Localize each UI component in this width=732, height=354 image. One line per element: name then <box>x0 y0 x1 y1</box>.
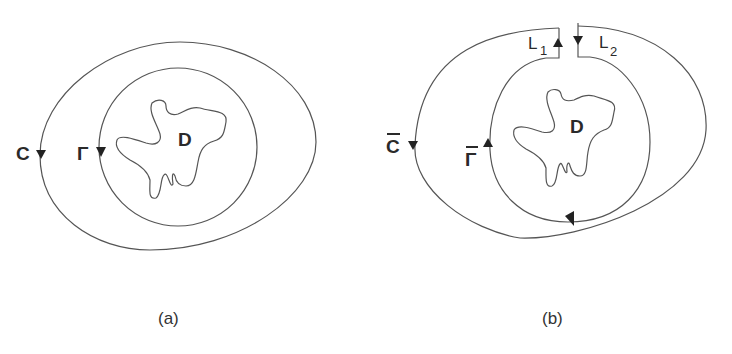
panel-a: C Γ D <box>16 42 316 250</box>
label-l1-subscript: 1 <box>540 43 547 58</box>
arrow-up-icon <box>553 38 563 47</box>
arrow-down-icon <box>408 141 418 150</box>
arrow-left-icon <box>565 211 574 226</box>
label-l1: L <box>528 34 537 53</box>
outer-curve-c-bar <box>415 26 706 238</box>
domain-d <box>116 100 226 198</box>
label-gamma-bar: Γ <box>465 149 477 170</box>
domain-d <box>514 90 615 187</box>
label-domain-d: D <box>178 129 192 150</box>
label-domain-d: D <box>570 116 584 137</box>
arrow-down-icon <box>96 147 106 157</box>
caption-a: (a) <box>158 309 179 328</box>
caption-b: (b) <box>542 309 563 328</box>
label-gamma: Γ <box>77 143 89 164</box>
contour-diagram: C Γ D C Γ D L 1 L 2 (a) (b) <box>0 0 732 354</box>
arrow-up-icon <box>483 138 493 147</box>
panel-b: C Γ D L 1 L 2 <box>386 23 706 238</box>
label-c-bar: C <box>386 136 400 157</box>
arrow-down-icon <box>573 36 583 45</box>
label-l2: L <box>599 33 608 52</box>
label-c: C <box>16 143 30 164</box>
inner-curve-gamma-bar <box>490 57 650 222</box>
arrow-down-icon <box>36 150 46 159</box>
label-l2-subscript: 2 <box>610 44 617 59</box>
